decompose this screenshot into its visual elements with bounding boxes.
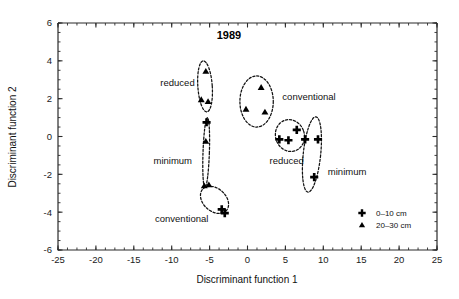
cluster-label-conventional: conventional [282,91,335,102]
legend-group: 0–10 cm20–30 cm [358,209,411,230]
y-tick-label: 4 [47,55,52,66]
cluster-label-conventional: conventional [155,213,208,224]
legend-label-0: 0–10 cm [376,209,407,218]
x-tick-label: 5 [283,254,288,265]
x-tick-label: -25 [51,254,65,265]
x-tick-label: -5 [205,254,213,265]
data-point-triangle [261,109,268,115]
cluster-ellipse [271,116,308,155]
data-point-cross [310,173,318,181]
y-tick-label: 2 [47,93,52,104]
cluster-labels-group: reducedminimumconventionalconventionalre… [154,77,367,224]
legend-marker-cross [358,209,365,216]
y-axis-title: Discriminant function 2 [7,86,18,188]
cluster-label-reduced: reduced [160,77,194,88]
cluster-ellipse [240,76,273,127]
x-tick-label: 15 [356,254,367,265]
y-tick-label: 0 [47,131,52,142]
data-point-triangle [202,68,209,74]
y-tick-label: 6 [47,17,52,28]
y-tick-label: -6 [44,244,52,255]
scatter-plot-canvas: -25-20-15-10-50510152025-6-4-20246 reduc… [0,0,459,299]
data-point-triangle [243,106,250,112]
x-axis-title: Discriminant function 1 [196,274,298,285]
cluster-label-reduced: reduced [269,155,303,166]
data-point-cross [301,135,309,143]
x-tick-label: -20 [89,254,103,265]
discriminant-analysis-figure: -25-20-15-10-50510152025-6-4-20246 reduc… [0,0,459,299]
cluster-label-minimum: minimum [154,155,193,166]
x-tick-label: 20 [394,254,405,265]
data-point-triangle [258,84,265,90]
y-tick-label: -4 [44,207,52,218]
x-tick-label: 10 [318,254,329,265]
chart-title: 1989 [217,29,241,41]
x-tick-label: -15 [127,254,141,265]
x-tick-label: -10 [165,254,179,265]
x-tick-label: 25 [432,254,443,265]
cluster-label-minimum: minimum [328,166,367,177]
data-point-cross [284,136,292,144]
y-tick-label: -2 [44,169,52,180]
data-point-cross [293,126,301,134]
data-point-triangle [205,98,212,104]
cluster-ellipse [202,117,211,187]
x-tick-label: 0 [245,254,250,265]
cluster-ellipse [196,60,214,112]
legend-marker-triangle [359,222,365,227]
legend-label-1: 20–30 cm [376,221,411,230]
